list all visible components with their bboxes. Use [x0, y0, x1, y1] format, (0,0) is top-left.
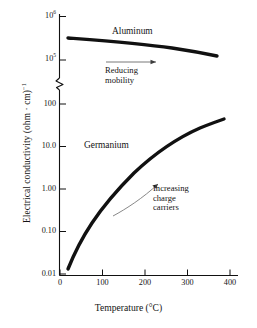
series-label-germanium: Germanium: [84, 140, 129, 150]
reducing-mobility-arrow-icon: [106, 60, 156, 64]
x-tick-label-100: 100: [96, 279, 108, 287]
annotation-reducing-mobility-line2: mobility: [105, 76, 138, 86]
y-tick-label-10: 10.0: [42, 142, 56, 150]
y-tick-label-100: 100: [44, 100, 56, 108]
y-axis-label: Electrical conductivity (ohm · cm)−1: [22, 78, 32, 228]
x-tick-label-400: 400: [224, 279, 236, 287]
x-tick-label-300: 300: [181, 279, 193, 287]
y-tick-exponent-1e6: 6: [53, 9, 56, 15]
series-curve-aluminum: [68, 38, 217, 56]
y-axis-label-exponent: −1: [20, 83, 27, 90]
annotation-charge-carriers-line3: carriers: [153, 203, 189, 213]
y-tick-exponent-1e5: 5: [53, 52, 56, 58]
y-tick-label-0.10: 0.10: [42, 227, 56, 235]
y-tick-label-0.01: 0.01: [42, 270, 56, 278]
annotation-reducing-mobility: Reducing mobility: [105, 66, 138, 85]
series-label-aluminum: Aluminum: [112, 26, 153, 36]
y-axis-break-zigzag: [56, 78, 63, 90]
y-tick-label-1e6: 106: [45, 12, 56, 20]
x-axis-label: Temperature (°C): [0, 302, 257, 313]
y-tick-label-1e5: 105: [45, 55, 56, 63]
x-tick-label-200: 200: [139, 279, 151, 287]
conductivity-vs-temperature-figure: 106 105 100 10.0 1.00 0.10 0.01 0 100 20…: [0, 0, 257, 328]
plot-canvas: [0, 0, 257, 328]
x-tick-label-0: 0: [58, 279, 62, 287]
annotation-increasing-charge-carriers: Increasing charge carriers: [153, 184, 189, 213]
y-tick-label-1: 1.00: [42, 185, 56, 193]
